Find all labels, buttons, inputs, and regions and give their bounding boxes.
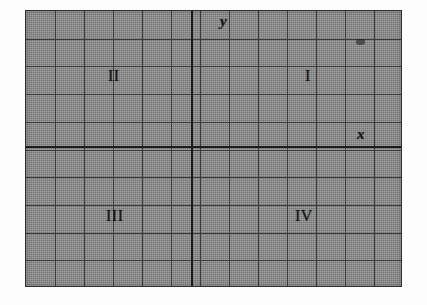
grid-line-horizontal bbox=[26, 150, 401, 151]
y-axis-label: y bbox=[220, 14, 227, 29]
scan-vignette bbox=[26, 11, 401, 286]
grid-line-horizontal bbox=[26, 122, 401, 123]
grid-line-vertical bbox=[171, 11, 172, 286]
quadrant-four-label: IV bbox=[295, 208, 313, 224]
coordinate-plane-plate bbox=[25, 10, 402, 287]
grid-line-vertical bbox=[200, 11, 201, 286]
grid-line-vertical bbox=[258, 11, 259, 286]
quadrant-two-label: II bbox=[108, 68, 120, 84]
grid-line-vertical bbox=[287, 11, 288, 286]
grid-line-vertical bbox=[142, 11, 143, 286]
grid-line-horizontal bbox=[26, 233, 401, 234]
figure-page: x y I II III IV bbox=[0, 0, 427, 305]
grid-line-vertical bbox=[316, 11, 317, 286]
x-axis-line bbox=[26, 146, 401, 148]
grid-line-vertical bbox=[55, 11, 56, 286]
y-axis-line bbox=[191, 11, 193, 286]
grid-line-horizontal bbox=[26, 39, 401, 40]
grid-line-horizontal bbox=[26, 94, 401, 95]
grid-line-horizontal bbox=[26, 260, 401, 261]
scan-halftone-texture bbox=[26, 11, 401, 286]
grid-line-vertical bbox=[229, 11, 230, 286]
quadrant-three-label: III bbox=[106, 208, 123, 224]
grid-line-vertical bbox=[374, 11, 375, 286]
grid-line-horizontal bbox=[26, 177, 401, 178]
grid-lines bbox=[26, 11, 401, 286]
grid-line-horizontal bbox=[26, 205, 401, 206]
scan-smudge-mark bbox=[356, 39, 365, 45]
grid-line-horizontal bbox=[26, 66, 401, 67]
grid-line-vertical bbox=[345, 11, 346, 286]
grid-line-vertical bbox=[113, 11, 114, 286]
grid-line-vertical bbox=[84, 11, 85, 286]
x-axis-label: x bbox=[357, 127, 365, 142]
quadrant-one-label: I bbox=[305, 68, 311, 84]
